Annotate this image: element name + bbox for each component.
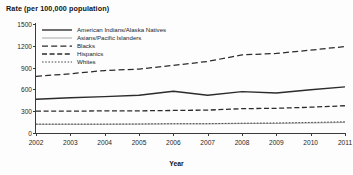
x-tick-mark [345,133,346,136]
x-tick-label: 2008 [235,139,250,146]
y-tick-label: 900 [21,64,32,71]
y-tick-label: 0 [28,130,32,137]
x-tick-label: 2010 [303,139,318,146]
y-tick-label: 600 [21,86,32,93]
x-tick-label: 2007 [200,139,215,146]
y-tick-mark [33,68,36,69]
x-tick-label: 2011 [338,139,352,146]
x-tick-mark [70,133,71,136]
legend-line-swatch [42,51,72,57]
legend-item-label: Blacks [77,43,95,50]
legend-item: Whites [42,59,222,66]
x-tick-mark [208,133,209,136]
x-tick-mark [311,133,312,136]
x-tick-label: 2005 [132,139,147,146]
legend-line-swatch [42,43,72,49]
series-line [36,106,345,111]
x-tick-label: 2004 [97,139,112,146]
legend-line-swatch [42,59,72,65]
legend-item-label: Asians/Pacific Islanders [77,35,141,42]
x-tick-label: 2009 [269,139,284,146]
x-tick-mark [105,133,106,136]
legend-item-label: American Indians/Alaska Natives [77,27,166,34]
y-axis-tick-labels: 030060090012001500 [0,0,32,175]
legend-item: American Indians/Alaska Natives [42,27,222,34]
x-axis-line [35,133,346,134]
y-tick-label: 1200 [17,42,32,49]
x-tick-label: 2002 [29,139,44,146]
series-line [36,122,345,124]
x-tick-label: 2006 [166,139,181,146]
x-tick-mark [173,133,174,136]
x-tick-mark [36,133,37,136]
x-tick-mark [139,133,140,136]
x-axis-title: Year [0,160,353,167]
y-tick-mark [33,24,36,25]
legend-item-label: Hispanics [77,51,103,58]
series-line [36,87,345,99]
x-tick-label: 2003 [63,139,78,146]
x-tick-mark [276,133,277,136]
y-tick-mark [33,111,36,112]
legend-item-label: Whites [77,59,96,66]
chart-figure: Rate (per 100,000 population) 0300600900… [0,0,353,175]
legend-item: Asians/Pacific Islanders [42,35,222,42]
y-tick-mark [33,89,36,90]
y-tick-mark [33,46,36,47]
x-tick-mark [242,133,243,136]
legend-item: Hispanics [42,51,222,58]
legend-item: Blacks [42,43,222,50]
y-tick-label: 1500 [17,21,32,28]
legend-line-swatch [42,35,72,41]
chart-legend: American Indians/Alaska NativesAsians/Pa… [42,27,222,67]
y-tick-label: 300 [21,108,32,115]
legend-line-swatch [42,27,72,33]
